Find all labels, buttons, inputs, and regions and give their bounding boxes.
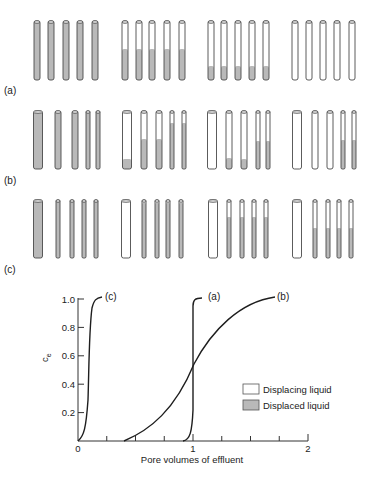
tube <box>221 21 227 80</box>
displaced-liquid-fill <box>92 21 98 80</box>
legend-swatch-displaced <box>243 400 259 410</box>
tube <box>227 200 231 258</box>
displaced-liquid-fill <box>34 111 43 169</box>
tube <box>320 21 326 80</box>
displaced-liquid-fill <box>77 21 83 80</box>
curve-c <box>78 297 102 441</box>
displaced-liquid-fill <box>264 217 268 258</box>
displaced-liquid-fill <box>263 66 269 80</box>
displaced-liquid-fill <box>349 228 353 258</box>
tube <box>337 200 341 258</box>
row-label-b: (b) <box>4 175 16 186</box>
displaced-liquid-fill <box>208 66 214 80</box>
displaced-liquid-fill <box>55 111 61 169</box>
displaced-liquid-fill <box>241 159 247 169</box>
tube <box>82 200 86 258</box>
y-ticks: 0.20.40.60.81.0 <box>62 294 84 419</box>
displaced-liquid-fill <box>249 66 255 80</box>
legend-label-displacing: Displacing liquid <box>263 384 332 395</box>
displaced-liquid-fill <box>34 21 40 80</box>
tube <box>313 200 317 258</box>
tube <box>264 200 268 258</box>
displaced-liquid-fill <box>179 203 183 258</box>
tube <box>123 111 132 169</box>
x-tick-label: 0 <box>75 443 80 454</box>
tube <box>142 200 146 258</box>
displaced-liquid-fill <box>34 200 43 258</box>
displaced-liquid-fill <box>142 203 146 258</box>
displaced-liquid-fill <box>72 111 78 169</box>
displaced-liquid-fill <box>252 217 256 258</box>
displaced-liquid-fill <box>156 139 162 169</box>
tube <box>122 21 128 80</box>
tube <box>86 111 90 169</box>
displacement-diagram: (a) (b) (c) 0.20.40.60.81.0 012 ce Pore … <box>0 0 371 481</box>
tube <box>182 111 186 169</box>
tube <box>92 21 98 80</box>
tube <box>34 200 43 258</box>
tube <box>48 21 54 80</box>
tube <box>263 21 269 80</box>
tube <box>63 21 69 80</box>
curve-label-b: (b) <box>277 291 289 302</box>
tube <box>352 111 356 169</box>
tube <box>149 21 155 80</box>
tube <box>327 111 333 169</box>
tube <box>266 111 270 169</box>
y-tick-label: 0.8 <box>62 322 75 333</box>
displaced-liquid-fill <box>141 139 147 169</box>
tube <box>34 111 43 169</box>
y-axis-label: ce <box>39 353 52 362</box>
breakthrough-chart: 0.20.40.60.81.0 012 ce Pore volumes of e… <box>39 291 332 465</box>
tube <box>179 21 185 80</box>
displaced-liquid-fill <box>56 200 60 258</box>
tube <box>209 200 218 258</box>
displaced-liquid-fill <box>179 49 185 80</box>
tube <box>312 111 318 169</box>
tube <box>256 111 260 169</box>
displaced-liquid-fill <box>166 203 170 258</box>
tube <box>170 111 174 169</box>
legend-label-displaced: Displaced liquid <box>263 400 330 411</box>
tube <box>141 111 147 169</box>
tube <box>349 200 353 258</box>
displaced-liquid-fill <box>182 123 186 169</box>
displaced-liquid-fill <box>136 49 142 80</box>
row-label-a: (a) <box>4 85 16 96</box>
tube <box>156 111 162 169</box>
y-tick-label: 0.2 <box>62 407 75 418</box>
displaced-liquid-fill <box>240 217 244 258</box>
tube <box>155 200 159 258</box>
legend: Displacing liquid Displaced liquid <box>243 384 332 411</box>
x-tick-label: 1 <box>190 443 195 454</box>
x-axis-label: Pore volumes of effluent <box>141 454 244 465</box>
displaced-liquid-fill <box>337 228 341 258</box>
displaced-liquid-fill <box>82 200 86 258</box>
tube <box>72 111 78 169</box>
displaced-liquid-fill <box>226 158 232 169</box>
tube <box>208 21 214 80</box>
displaced-liquid-fill <box>70 200 74 258</box>
displaced-liquid-fill <box>341 140 345 169</box>
tube <box>70 200 74 258</box>
tube <box>240 200 244 258</box>
tube <box>166 200 170 258</box>
y-tick-label: 1.0 <box>62 294 75 305</box>
tube <box>208 111 217 169</box>
tube <box>249 21 255 80</box>
displaced-liquid-fill <box>227 217 231 258</box>
tube-rows <box>34 21 357 258</box>
displaced-liquid-fill <box>155 203 159 258</box>
displaced-liquid-fill <box>94 200 98 258</box>
curve-label-c: (c) <box>105 291 117 302</box>
tube <box>235 21 241 80</box>
displaced-liquid-fill <box>352 140 356 169</box>
displaced-liquid-fill <box>86 111 90 169</box>
tube <box>56 200 60 258</box>
y-tick-label: 0.4 <box>62 379 75 390</box>
displaced-liquid-fill <box>313 228 317 258</box>
tube <box>292 21 298 80</box>
x-ticks: 012 <box>75 434 310 454</box>
tube <box>122 200 131 258</box>
tube <box>164 21 170 80</box>
